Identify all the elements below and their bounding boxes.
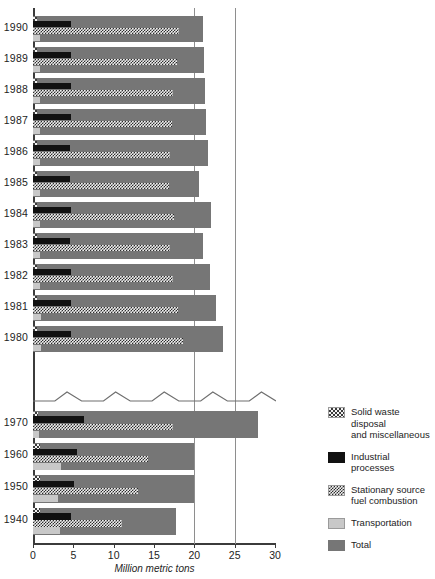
tick-15 [154, 544, 155, 548]
legend-swatch-total-icon [328, 540, 345, 551]
bar-transportation-1983[interactable] [33, 252, 40, 259]
bar-stationary-1985[interactable] [33, 183, 169, 189]
bar-group-1983[interactable]: 1983 [33, 233, 275, 260]
tick-0 [33, 544, 34, 548]
bar-transportation-1990[interactable] [33, 35, 40, 42]
legend-item-total[interactable]: Total [328, 539, 433, 551]
bar-stationary-1990[interactable] [33, 28, 179, 34]
bar-group-1960[interactable]: 1960 [33, 443, 275, 471]
year-label-1983: 1983 [4, 238, 28, 250]
bar-transportation-1988[interactable] [33, 97, 40, 104]
bar-transportation-1987[interactable] [33, 128, 40, 135]
bar-industrial-1988[interactable] [33, 83, 71, 89]
legend-label-solidwaste: Solid waste disposaland miscellaneous [351, 406, 433, 441]
bar-industrial-1940[interactable] [33, 513, 71, 520]
bar-transportation-1989[interactable] [33, 66, 40, 73]
tick-label-25: 25 [229, 549, 241, 561]
year-label-1960: 1960 [4, 448, 28, 460]
legend-item-industrial[interactable]: Industrial processes [328, 451, 433, 474]
legend-swatch-industrial-icon [328, 452, 345, 463]
bar-group-1990[interactable]: 1990 [33, 16, 275, 43]
bar-stationary-1987[interactable] [33, 121, 172, 127]
legend-swatch-solidwaste-icon [328, 407, 345, 418]
bar-group-1980[interactable]: 1980 [33, 326, 275, 353]
bar-industrial-1981[interactable] [33, 300, 71, 306]
tick-label-0: 0 [30, 549, 36, 561]
tick-20 [194, 544, 195, 548]
year-label-1989: 1989 [4, 52, 28, 64]
bar-stationary-1960[interactable] [33, 456, 148, 463]
bar-stationary-1984[interactable] [33, 214, 174, 220]
bar-group-1981[interactable]: 1981 [33, 295, 275, 322]
legend-label-transport: Transportation [351, 517, 412, 529]
year-label-1985: 1985 [4, 176, 28, 188]
bar-transportation-1986[interactable] [33, 159, 40, 166]
tick-label-20: 20 [188, 549, 200, 561]
bar-industrial-1970[interactable] [33, 416, 84, 423]
legend-label-total: Total [351, 539, 371, 551]
legend-label-industrial: Industrial processes [351, 451, 433, 474]
bar-stationary-1981[interactable] [33, 307, 178, 313]
bar-group-1982[interactable]: 1982 [33, 264, 275, 291]
x-axis-title: Million metric tons [33, 563, 276, 574]
bar-stationary-1940[interactable] [33, 520, 122, 527]
tick-label-15: 15 [148, 549, 160, 561]
year-label-1990: 1990 [4, 21, 28, 33]
bar-transportation-1981[interactable] [33, 314, 41, 321]
bar-stationary-1982[interactable] [33, 276, 173, 282]
legend-item-solidwaste[interactable]: Solid waste disposaland miscellaneous [328, 406, 433, 441]
year-label-1970: 1970 [4, 416, 28, 428]
bar-industrial-1986[interactable] [33, 145, 70, 151]
bar-transportation-1970[interactable] [33, 431, 39, 438]
bar-group-1987[interactable]: 1987 [33, 109, 275, 136]
year-label-1940: 1940 [4, 513, 28, 525]
bar-stationary-1980[interactable] [33, 338, 183, 344]
bar-industrial-1984[interactable] [33, 207, 71, 213]
bar-industrial-1990[interactable] [33, 21, 71, 27]
bar-stationary-1988[interactable] [33, 90, 173, 96]
bar-stationary-1986[interactable] [33, 152, 170, 158]
bar-industrial-1960[interactable] [33, 449, 77, 456]
bar-group-1950[interactable]: 1950 [33, 475, 275, 503]
legend-swatch-stationary-icon [328, 485, 345, 496]
bar-group-1988[interactable]: 1988 [33, 78, 275, 105]
bar-group-1984[interactable]: 1984 [33, 202, 275, 229]
bar-industrial-1989[interactable] [33, 52, 71, 58]
bar-stationary-1983[interactable] [33, 245, 170, 251]
bar-industrial-1985[interactable] [33, 176, 70, 182]
legend-item-transport[interactable]: Transportation [328, 517, 433, 529]
bar-industrial-1980[interactable] [33, 331, 71, 337]
bar-stationary-1950[interactable] [33, 488, 138, 495]
bar-transportation-1985[interactable] [33, 190, 40, 197]
bar-group-1985[interactable]: 1985 [33, 171, 275, 198]
year-label-1986: 1986 [4, 145, 28, 157]
bar-industrial-1982[interactable] [33, 269, 71, 275]
bar-group-1986[interactable]: 1986 [33, 140, 275, 167]
bar-stationary-1970[interactable] [33, 424, 173, 431]
bar-transportation-1982[interactable] [33, 283, 40, 290]
year-label-1950: 1950 [4, 480, 28, 492]
bar-group-1989[interactable]: 1989 [33, 47, 275, 74]
chart-root: 1990198919881987198619851984198319821981… [0, 0, 435, 579]
bar-transportation-1950[interactable] [33, 495, 58, 502]
bar-transportation-1940[interactable] [33, 527, 60, 534]
bar-transportation-1984[interactable] [33, 221, 40, 228]
year-label-1987: 1987 [4, 114, 28, 126]
axis-break-zigzag [33, 390, 276, 403]
year-label-1982: 1982 [4, 269, 28, 281]
bar-industrial-1950[interactable] [33, 481, 74, 488]
tick-label-30: 30 [269, 549, 281, 561]
bar-industrial-1983[interactable] [33, 238, 70, 244]
bar-stationary-1989[interactable] [33, 59, 177, 65]
tick-label-5: 5 [70, 549, 76, 561]
tick-25 [235, 544, 236, 548]
bar-transportation-1980[interactable] [33, 345, 41, 352]
year-label-1984: 1984 [4, 207, 28, 219]
bar-group-1940[interactable]: 1940 [33, 508, 275, 536]
bar-group-1970[interactable]: 1970 [33, 411, 275, 439]
bar-industrial-1987[interactable] [33, 114, 71, 120]
tick-30 [275, 544, 276, 548]
year-label-1988: 1988 [4, 83, 28, 95]
legend-item-stationary[interactable]: Stationary sourcefuel combustion [328, 484, 433, 507]
bar-transportation-1960[interactable] [33, 463, 61, 470]
